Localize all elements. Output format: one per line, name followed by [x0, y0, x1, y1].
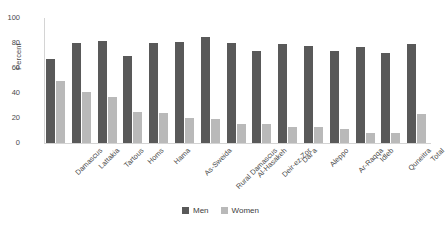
legend-swatch-men	[182, 207, 189, 214]
bar-group	[250, 18, 276, 143]
bar-groups	[44, 18, 431, 144]
y-axis-tick-label: 0	[16, 139, 20, 147]
y-axis-tick-label: 100	[7, 14, 20, 22]
bar-women[interactable]	[391, 133, 400, 143]
bar-women[interactable]	[159, 113, 168, 143]
bar-women[interactable]	[108, 97, 117, 143]
x-axis-category-label: Aleppo	[328, 146, 351, 169]
bar-women[interactable]	[340, 129, 349, 143]
x-axis-category-label: Tartous	[122, 146, 146, 170]
bar-group	[405, 18, 431, 143]
bar-women[interactable]	[185, 118, 194, 143]
bar-men[interactable]	[98, 41, 107, 144]
bar-women[interactable]	[262, 124, 271, 143]
bar-group	[121, 18, 147, 143]
bar-women[interactable]	[56, 81, 65, 144]
bar-group	[199, 18, 225, 143]
bar-men[interactable]	[304, 46, 313, 144]
legend-swatch-women	[221, 207, 228, 214]
bar-group	[147, 18, 173, 143]
bar-women[interactable]	[211, 119, 220, 143]
bar-women[interactable]	[288, 127, 297, 143]
bar-women[interactable]	[417, 114, 426, 143]
x-axis-category-label: Quneitra	[407, 146, 433, 172]
x-axis-category-label: Total	[429, 146, 446, 163]
legend-label: Men	[193, 206, 209, 215]
bar-group	[276, 18, 302, 143]
bar-group	[173, 18, 199, 143]
legend-item[interactable]: Women	[221, 206, 259, 215]
bar-group	[96, 18, 122, 143]
bar-men[interactable]	[252, 51, 261, 144]
x-axis-category-labels: DamascusLattakiaTartousHomsHamaAs-Sweida…	[44, 146, 431, 202]
bar-group	[44, 18, 70, 143]
y-axis-tick-labels: 020406080100	[0, 0, 44, 146]
bar-men[interactable]	[46, 59, 55, 143]
bar-women[interactable]	[366, 133, 375, 143]
bar-men[interactable]	[175, 42, 184, 143]
bar-men[interactable]	[381, 53, 390, 143]
bar-group	[328, 18, 354, 143]
bar-men[interactable]	[278, 44, 287, 143]
bar-men[interactable]	[227, 43, 236, 143]
y-axis-tick-label: 20	[12, 114, 20, 122]
x-axis-category-label: As-Sweida	[202, 146, 233, 177]
bar-men[interactable]	[201, 37, 210, 143]
bar-group	[70, 18, 96, 143]
bar-men[interactable]	[149, 43, 158, 143]
x-axis-category-label: Homs	[146, 146, 166, 166]
bar-men[interactable]	[123, 56, 132, 144]
bar-group	[225, 18, 251, 143]
y-axis-tick-label: 40	[12, 89, 20, 97]
y-axis-tick-label: 80	[12, 39, 20, 47]
bar-men[interactable]	[330, 51, 339, 144]
bar-men[interactable]	[407, 44, 416, 143]
bar-men[interactable]	[72, 43, 81, 143]
legend-item[interactable]: Men	[182, 206, 209, 215]
bar-group	[302, 18, 328, 143]
bar-women[interactable]	[82, 92, 91, 143]
chart-legend: MenWomen	[0, 206, 441, 215]
bar-women[interactable]	[237, 124, 246, 143]
bar-women[interactable]	[133, 112, 142, 143]
legend-label: Women	[232, 206, 259, 215]
bar-group	[354, 18, 380, 143]
plot-area	[44, 18, 431, 144]
y-axis-tick-label: 60	[12, 64, 20, 72]
bar-group	[379, 18, 405, 143]
x-axis-category-label: Hama	[172, 146, 192, 166]
bar-women[interactable]	[314, 127, 323, 143]
bar-men[interactable]	[356, 47, 365, 143]
